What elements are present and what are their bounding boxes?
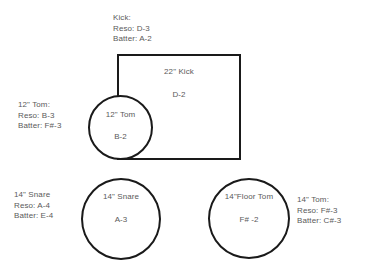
snare-annotation: 14" Snare Reso: A-4 Batter: E-4 (14, 190, 53, 222)
rack-tom-inner-note: B-2 (88, 131, 153, 142)
floor-tom-annotation-batter: Batter: C#-3 (297, 216, 341, 227)
rack-tom-annotation-heading: 12" Tom: (18, 100, 61, 111)
rack-tom-inner-name: 12" Tom (88, 109, 153, 120)
kick-annotation-batter: Batter: A-2 (113, 34, 152, 45)
snare-inner-name: 14" Snare (81, 191, 161, 202)
snare-annotation-reso: Reso: A-4 (14, 201, 53, 212)
floor-tom-annotation: 14" Tom: Reso: F#-3 Batter: C#-3 (297, 195, 341, 227)
snare-annotation-batter: Batter: E-4 (14, 211, 53, 222)
kick-drum-inner-name: 22" Kick (141, 66, 217, 77)
rack-tom-annotation-reso: Reso: B-3 (18, 111, 61, 122)
rack-tom-shape (88, 95, 153, 160)
kick-annotation: Kick: Reso: D-3 Batter: A-2 (113, 13, 152, 45)
kick-annotation-reso: Reso: D-3 (113, 24, 152, 35)
rack-tom-annotation: 12" Tom: Reso: B-3 Batter: F#-3 (18, 100, 61, 132)
snare-annotation-heading: 14" Snare (14, 190, 53, 201)
rack-tom-annotation-batter: Batter: F#-3 (18, 121, 61, 132)
snare-inner-note: A-3 (81, 214, 161, 225)
kick-drum-inner-note: D-2 (141, 89, 217, 100)
floor-tom-inner-name: 14"Floor Tom (208, 191, 290, 202)
drum-kit-diagram: Kick: Reso: D-3 Batter: A-2 22" Kick D-2… (0, 0, 373, 278)
floor-tom-annotation-heading: 14" Tom: (297, 195, 341, 206)
floor-tom-annotation-reso: Reso: F#-3 (297, 206, 341, 217)
kick-annotation-heading: Kick: (113, 13, 152, 24)
floor-tom-inner-note: F# -2 (208, 214, 290, 225)
